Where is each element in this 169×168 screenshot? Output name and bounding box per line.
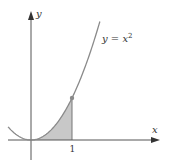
point-one-one — [70, 96, 74, 100]
function-label-exponent: 2 — [128, 32, 132, 40]
graph-canvas: y x 1 y = x2 — [0, 0, 169, 168]
y-axis-label: y — [35, 8, 42, 19]
x-axis-label: x — [152, 124, 158, 135]
x-axis-arrow-icon — [151, 137, 160, 143]
function-label-base: y = x — [101, 33, 128, 44]
parabola-curve — [8, 21, 100, 140]
parabola-area-figure: y x 1 y = x2 — [0, 0, 169, 168]
tick-label-one: 1 — [70, 144, 76, 154]
y-axis-arrow-icon — [28, 11, 34, 20]
function-label: y = x2 — [101, 32, 133, 44]
shaded-area — [31, 98, 72, 140]
